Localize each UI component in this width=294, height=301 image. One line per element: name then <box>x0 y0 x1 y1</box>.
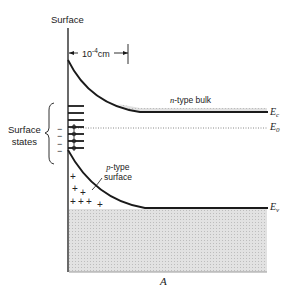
positive-charge: + <box>78 197 84 207</box>
surface-states-line1: Surface <box>8 124 41 136</box>
positive-charge: + <box>70 172 76 182</box>
scale-unit: cm <box>98 49 110 59</box>
valence-band-fill <box>69 209 267 272</box>
conduction-band-edge <box>68 60 268 112</box>
scale-base: 10 <box>82 49 92 59</box>
figure-caption: A <box>160 276 167 287</box>
n-type-bulk-label: n-type bulk <box>170 96 211 105</box>
p-surface-word: surface <box>104 172 132 182</box>
positive-charge: + <box>86 197 92 207</box>
surface-states-line2: states <box>8 136 41 148</box>
negative-charge: − <box>57 147 62 156</box>
ev-label: Ev <box>270 202 279 214</box>
surface-states-bracket <box>45 103 54 164</box>
n-type-rest: -type bulk <box>174 95 211 105</box>
p-type-rest: -type <box>111 162 130 172</box>
p-type-surface-label: p-type surface <box>104 162 132 182</box>
band-diagram <box>0 0 294 301</box>
surface-states-label: Surface states <box>8 124 41 148</box>
e0-label: E0 <box>270 122 280 134</box>
occupied-state-circles <box>72 124 76 151</box>
ec-label: Ec <box>270 107 279 119</box>
surface-axis-label: Surface <box>51 15 84 25</box>
e0-subscript: 0 <box>276 126 280 134</box>
scale-label: 10-4cm <box>82 48 110 59</box>
positive-charge: + <box>97 200 103 210</box>
ev-subscript: v <box>276 206 279 214</box>
positive-charge: + <box>72 184 78 194</box>
scale-arrowhead-left <box>69 51 74 55</box>
positive-charge: + <box>70 197 76 207</box>
scale-arrowhead-right <box>123 51 128 55</box>
ec-subscript: c <box>276 111 279 119</box>
